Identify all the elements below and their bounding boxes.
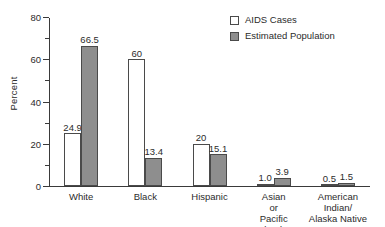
x-axis-line — [49, 186, 370, 187]
bar-estimated-population-1: 13.4 — [145, 158, 162, 186]
bar-chart: Percent 020406080 24.966.5White6013.4Bla… — [0, 0, 385, 227]
x-category-label-0: White — [49, 191, 113, 202]
bar-aids-cases-3: 1.0 — [257, 184, 274, 186]
bar-value-label: 0.5 — [323, 174, 336, 184]
x-category-label-2: Hispanic — [177, 191, 241, 202]
legend-swatch-icon — [230, 32, 239, 41]
y-tick-80 — [43, 17, 49, 18]
bar-value-label: 24.9 — [63, 123, 82, 133]
bar-value-label: 15.1 — [209, 144, 228, 154]
bar-value-label: 20 — [196, 133, 207, 143]
bar-estimated-population-2: 15.1 — [210, 154, 227, 186]
y-tick-40 — [43, 102, 49, 103]
y-tick-60 — [43, 59, 49, 60]
legend-label: AIDS Cases — [245, 15, 297, 25]
y-tick-70 — [45, 38, 49, 39]
bar-value-label: 66.5 — [80, 35, 99, 45]
bar-aids-cases-2: 20 — [193, 144, 210, 186]
y-tick-20 — [43, 144, 49, 145]
x-category-label-4: American Indian/ Alaska Native — [306, 191, 370, 224]
y-tick-label-20: 20 — [30, 140, 41, 150]
legend-label: Estimated Population — [245, 31, 335, 41]
bar-estimated-population-0: 66.5 — [81, 46, 98, 186]
bar-aids-cases-0: 24.9 — [64, 133, 81, 186]
bar-aids-cases-1: 60 — [128, 59, 145, 186]
legend-swatch-icon — [230, 16, 239, 25]
x-category-label-3: Asian or Pacific Islander — [242, 191, 306, 227]
x-category-label-1: Black — [113, 191, 177, 202]
y-tick-0 — [43, 186, 49, 187]
bar-value-label: 60 — [132, 49, 143, 59]
bar-estimated-population-3: 3.9 — [274, 178, 291, 186]
y-tick-30 — [45, 123, 49, 124]
y-tick-label-40: 40 — [30, 98, 41, 108]
y-tick-10 — [45, 165, 49, 166]
bar-aids-cases-4: 0.5 — [321, 184, 338, 186]
y-tick-label-80: 80 — [30, 13, 41, 23]
bar-value-label: 3.9 — [276, 167, 289, 177]
bar-estimated-population-4: 1.5 — [338, 183, 355, 186]
legend-item-aids-cases[interactable]: AIDS Cases — [230, 12, 335, 28]
y-tick-label-0: 0 — [36, 182, 41, 192]
y-axis-label: Percent — [8, 64, 19, 124]
y-axis-line — [49, 18, 50, 187]
legend-item-estimated-population[interactable]: Estimated Population — [230, 28, 335, 44]
y-tick-50 — [45, 80, 49, 81]
chart-legend: AIDS CasesEstimated Population — [230, 12, 335, 44]
bar-value-label: 13.4 — [145, 147, 164, 157]
y-tick-label-60: 60 — [30, 56, 41, 66]
bar-value-label: 1.5 — [340, 172, 353, 182]
bar-value-label: 1.0 — [259, 173, 272, 183]
